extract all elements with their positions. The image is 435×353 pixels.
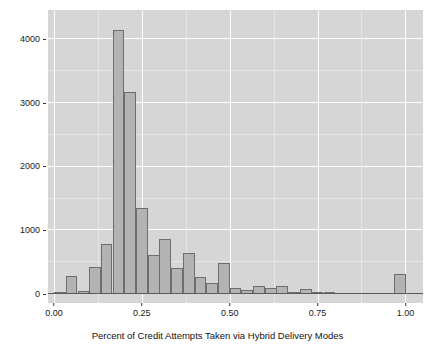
x-axis-tick-mark — [141, 303, 142, 306]
plot-panel — [48, 10, 423, 303]
y-axis: 01000200030004000 — [0, 10, 48, 303]
histogram-bar — [66, 276, 78, 294]
histogram-bar — [394, 274, 406, 294]
x-axis-tick: 0.25 — [133, 303, 151, 318]
y-axis-tick-mark — [43, 103, 46, 104]
x-axis-tick-label: 1.00 — [397, 309, 415, 318]
bars-layer — [48, 10, 423, 303]
histogram-bar — [89, 267, 101, 294]
histogram-bar — [101, 244, 113, 294]
x-axis-tick-label: 0.00 — [45, 309, 63, 318]
y-axis-tick-label: 1000 — [20, 226, 43, 235]
x-axis-title: Percent of Credit Attempts Taken via Hyb… — [0, 330, 435, 341]
histogram-bar — [113, 30, 125, 294]
axis-baseline — [48, 293, 423, 294]
y-axis-tick-label: 4000 — [20, 35, 43, 44]
y-axis-tick-label: 2000 — [20, 162, 43, 171]
histogram-bar — [171, 268, 183, 294]
x-axis-tick-label: 0.25 — [133, 309, 151, 318]
histogram-bar — [124, 92, 136, 294]
x-axis-tick: 1.00 — [397, 303, 415, 318]
histogram-bar — [195, 277, 207, 294]
histogram-bar — [159, 239, 171, 294]
y-axis-tick-mark — [43, 39, 46, 40]
x-axis-tick: 0.00 — [45, 303, 63, 318]
histogram-bar — [136, 208, 148, 294]
histogram-bar — [218, 263, 230, 294]
histogram-chart: 01000200030004000 0.000.250.500.751.00 P… — [0, 0, 435, 353]
x-axis-tick-mark — [405, 303, 406, 306]
x-axis-tick: 0.50 — [221, 303, 239, 318]
y-axis-tick-label: 0 — [35, 290, 43, 299]
y-axis-tick-mark — [43, 294, 46, 295]
x-axis: 0.000.250.500.751.00 — [48, 303, 423, 325]
y-axis-tick-label: 3000 — [20, 99, 43, 108]
histogram-bar — [183, 253, 195, 294]
x-axis-tick-mark — [317, 303, 318, 306]
x-axis-tick-mark — [53, 303, 54, 306]
x-axis-tick-label: 0.50 — [221, 309, 239, 318]
x-axis-tick-label: 0.75 — [309, 309, 327, 318]
histogram-bar — [148, 255, 160, 294]
y-axis-tick-mark — [43, 166, 46, 167]
x-axis-tick: 0.75 — [309, 303, 327, 318]
y-axis-tick-mark — [43, 230, 46, 231]
x-axis-tick-mark — [229, 303, 230, 306]
